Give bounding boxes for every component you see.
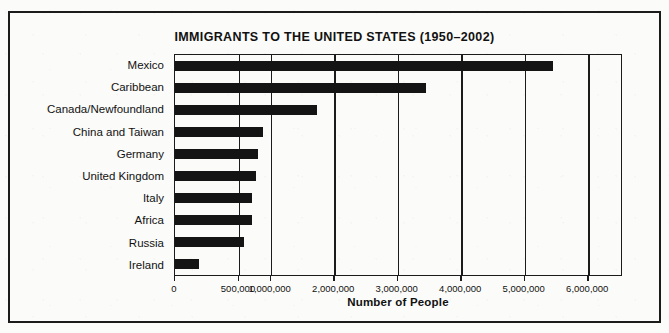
x-axis-tick <box>587 276 588 281</box>
y-axis-category-labels: MexicoCaribbeanCanada/NewfoundlandChina … <box>10 54 170 276</box>
x-axis-tick <box>333 276 334 281</box>
y-axis-label: Ireland <box>10 260 170 270</box>
bar <box>175 171 256 181</box>
x-axis-title: Number of People <box>174 296 622 308</box>
bar-row <box>175 193 621 203</box>
bar <box>175 259 199 269</box>
x-axis-tick-label: 6,000,000 <box>566 283 608 294</box>
x-axis-tick <box>460 276 461 281</box>
y-axis-label: Caribbean <box>10 82 170 92</box>
bar <box>175 149 258 159</box>
bar <box>175 237 244 247</box>
x-axis-tick <box>270 276 271 281</box>
y-axis-label: United Kingdom <box>10 171 170 181</box>
bar <box>175 105 317 115</box>
y-axis-label: China and Taiwan <box>10 127 170 137</box>
x-axis-tick <box>174 276 175 281</box>
x-axis-tick-label: 5,000,000 <box>503 283 545 294</box>
bar-row <box>175 149 621 159</box>
y-axis-label: Italy <box>10 193 170 203</box>
x-axis-tick <box>524 276 525 281</box>
y-axis-label: Mexico <box>10 60 170 70</box>
chart-screenshot: IMMIGRANTS TO THE UNITED STATES (1950–20… <box>0 0 669 333</box>
y-axis-label: Canada/Newfoundland <box>10 104 170 114</box>
bar-series <box>175 55 621 275</box>
bar-row <box>175 237 621 247</box>
bar-row <box>175 171 621 181</box>
bar <box>175 83 426 93</box>
chart-frame: IMMIGRANTS TO THE UNITED STATES (1950–20… <box>8 11 661 323</box>
plot-area <box>174 54 622 276</box>
bar <box>175 215 252 225</box>
bar-row <box>175 83 621 93</box>
y-axis-label: Russia <box>10 238 170 248</box>
chart-title: IMMIGRANTS TO THE UNITED STATES (1950–20… <box>10 30 659 44</box>
x-axis-tick <box>238 276 239 281</box>
bar <box>175 193 252 203</box>
x-axis-tick-label: 4,000,000 <box>439 283 481 294</box>
x-axis-tick-label: 3,000,000 <box>376 283 418 294</box>
x-axis-tick-label: 0 <box>171 283 176 294</box>
y-axis-label: Germany <box>10 149 170 159</box>
x-axis-tick <box>397 276 398 281</box>
bar <box>175 61 553 71</box>
x-axis-tick-label: 2,000,000 <box>312 283 354 294</box>
bar-row <box>175 61 621 71</box>
bar <box>175 127 263 137</box>
plot-region <box>174 54 622 276</box>
bar-row <box>175 127 621 137</box>
bar-row <box>175 215 621 225</box>
x-axis-tick-label: 1,000,000 <box>249 283 291 294</box>
bar-row <box>175 259 621 269</box>
y-axis-label: Africa <box>10 215 170 225</box>
bar-row <box>175 105 621 115</box>
